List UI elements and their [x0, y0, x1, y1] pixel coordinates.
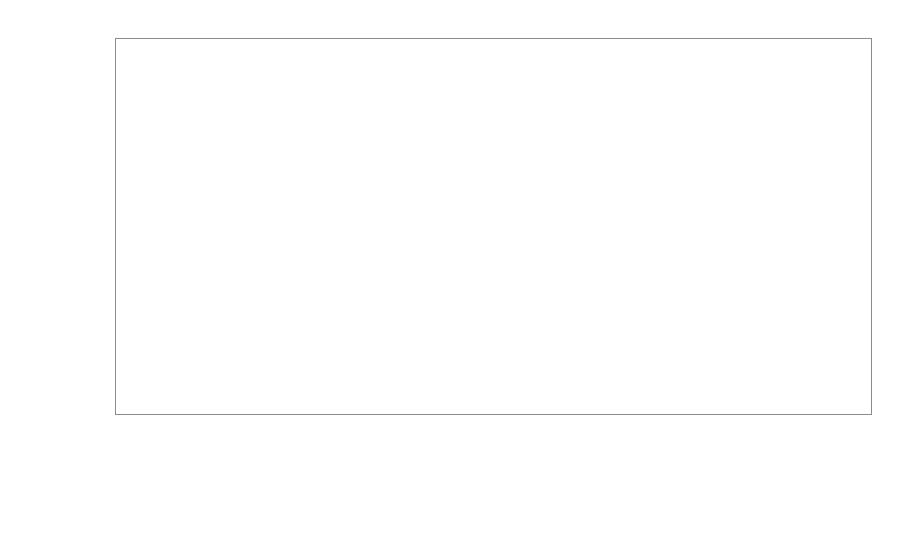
y-axis-tick-labels: [0, 38, 105, 415]
plot-area: [115, 38, 872, 415]
scatter-chart: [0, 0, 915, 537]
